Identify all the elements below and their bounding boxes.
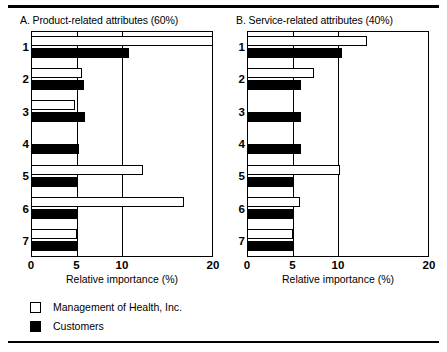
y-tick-label: 7: [18, 235, 29, 247]
bar-customers: [31, 80, 84, 90]
bar-group: [247, 160, 429, 192]
panel-a-title: A. Product-related attributes (60%): [18, 14, 213, 26]
bar-management: [31, 68, 82, 78]
bar-group: [247, 31, 429, 63]
bar-customers: [31, 177, 77, 187]
bar-management: [31, 197, 184, 207]
panel-a-y-tick-labels: 1234567: [18, 31, 31, 257]
bar-group: [247, 192, 429, 224]
panel-b-title: B. Service-related attributes (40%): [234, 14, 429, 26]
bar-management: [31, 165, 143, 175]
panel-b-bar-groups: [247, 31, 429, 257]
bar-group: [247, 63, 429, 95]
bar-group: [247, 225, 429, 257]
x-tick-label: 0: [244, 259, 250, 272]
y-tick-label: 7: [234, 235, 245, 247]
bar-customers: [247, 144, 301, 154]
x-tick-label: 10: [116, 259, 129, 272]
bar-group: [247, 96, 429, 128]
bar-group: [31, 160, 213, 192]
panel-a-bar-groups: [31, 31, 213, 257]
bar-management: [247, 165, 340, 175]
y-tick-label: 4: [18, 138, 29, 150]
bar-customers: [31, 144, 79, 154]
panel-b-x-axis-title: Relative importance (%): [247, 273, 429, 286]
legend-swatch-solid: [30, 321, 41, 332]
x-tick-label: 20: [207, 259, 220, 272]
figure-top-rule: [8, 5, 439, 8]
y-tick-label: 2: [18, 73, 29, 85]
panel-a-x-tick-labels: 051020: [31, 257, 213, 273]
y-tick-label: 3: [234, 106, 245, 118]
legend: Management of Health, Inc. Customers: [30, 298, 182, 336]
bar-group: [31, 225, 213, 257]
bar-management: [247, 36, 367, 46]
bar-group: [31, 128, 213, 160]
figure-bottom-rule: [8, 341, 439, 343]
panel-b-x-tick-labels: 051020: [247, 257, 429, 273]
bar-group: [31, 192, 213, 224]
bar-group: [31, 31, 213, 63]
bar-group: [247, 128, 429, 160]
bar-customers: [247, 48, 342, 58]
y-tick-label: 6: [18, 203, 29, 215]
x-tick-label: 0: [28, 259, 34, 272]
bar-management: [247, 68, 314, 78]
chart-panel-b: B. Service-related attributes (40%) 1234…: [234, 14, 429, 286]
bar-customers: [247, 112, 301, 122]
y-tick-label: 1: [18, 41, 29, 53]
bar-management: [247, 197, 300, 207]
x-tick-label: 10: [332, 259, 345, 272]
bar-management: [31, 229, 77, 239]
legend-item: Management of Health, Inc.: [30, 298, 182, 317]
bar-customers: [247, 80, 301, 90]
bar-management: [247, 229, 293, 239]
y-tick-label: 3: [18, 106, 29, 118]
chart-panel-a: A. Product-related attributes (60%) 1234…: [18, 14, 213, 286]
x-tick-label: 5: [289, 259, 295, 272]
bar-customers: [247, 177, 293, 187]
bar-group: [31, 63, 213, 95]
panel-b-y-tick-labels: 1234567: [234, 31, 247, 257]
bar-customers: [31, 241, 77, 251]
bar-customers: [247, 241, 293, 251]
bar-management: [31, 36, 213, 46]
legend-swatch-open: [30, 302, 41, 313]
y-tick-label: 1: [234, 41, 245, 53]
legend-item: Customers: [30, 317, 182, 336]
panel-b-plot-area: 1234567: [247, 31, 429, 257]
bar-customers: [31, 48, 129, 58]
y-tick-label: 4: [234, 138, 245, 150]
bar-customers: [31, 112, 85, 122]
panel-a-plot-area: 1234567: [31, 31, 213, 257]
bar-management: [31, 100, 75, 110]
x-tick-label: 20: [423, 259, 436, 272]
y-tick-label: 2: [234, 73, 245, 85]
y-tick-label: 6: [234, 203, 245, 215]
legend-item-label: Management of Health, Inc.: [53, 301, 182, 314]
legend-item-label: Customers: [53, 320, 104, 333]
bar-customers: [247, 209, 293, 219]
x-tick-label: 5: [73, 259, 79, 272]
y-tick-label: 5: [18, 170, 29, 182]
bar-customers: [31, 209, 77, 219]
panel-a-x-axis-title: Relative importance (%): [31, 273, 213, 286]
bar-group: [31, 96, 213, 128]
y-tick-label: 5: [234, 170, 245, 182]
